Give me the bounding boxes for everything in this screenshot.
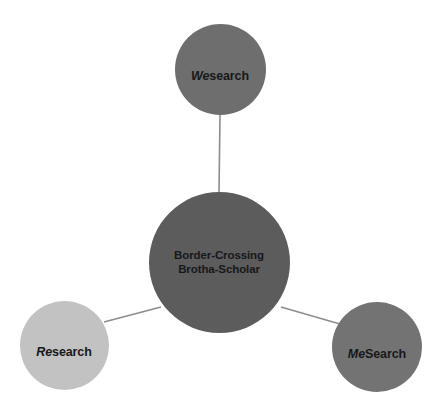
node-mesearch-label: MeSearch xyxy=(344,331,410,362)
node-wesearch-label-italic: We xyxy=(191,69,209,83)
node-research-label-italic: Re xyxy=(36,345,52,359)
edge-hub-mesearch xyxy=(281,307,340,324)
diagram-canvas: Wesearch Border-Crossing Brotha-Scholar … xyxy=(0,0,437,407)
edge-hub-research xyxy=(104,307,161,322)
node-research-label: Research xyxy=(32,329,96,360)
node-mesearch-label-italic: Me xyxy=(348,347,365,361)
node-wesearch[interactable]: Wesearch xyxy=(175,24,266,115)
node-research-label-roman: search xyxy=(52,345,92,359)
node-mesearch-label-roman: Search xyxy=(365,347,406,361)
node-wesearch-label: Wesearch xyxy=(187,53,253,84)
node-hub-label: Border-Crossing Brotha-Scholar xyxy=(170,248,268,277)
edge-hub-wesearch xyxy=(219,115,220,192)
node-mesearch[interactable]: MeSearch xyxy=(332,302,422,392)
node-border-crossing-brotha-scholar[interactable]: Border-Crossing Brotha-Scholar xyxy=(149,192,290,333)
node-research[interactable]: Research xyxy=(20,301,109,390)
node-wesearch-label-roman: search xyxy=(209,69,249,83)
